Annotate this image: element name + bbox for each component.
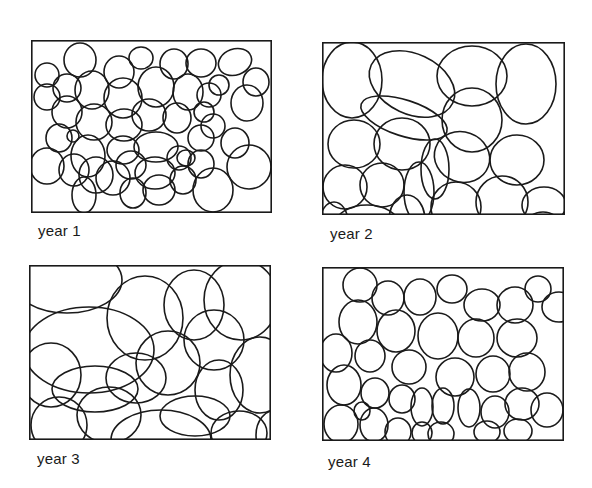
plant-clump-outline — [458, 389, 480, 427]
plant-clump-outline — [327, 365, 361, 405]
plant-clump-outline — [256, 410, 296, 460]
plant-clump-outline — [497, 319, 537, 357]
panel-label-year-1: year 1 — [38, 222, 81, 239]
plant-clump-outline — [227, 145, 271, 189]
panel-label-year-3: year 3 — [37, 450, 80, 467]
plant-clump-outline — [322, 42, 382, 118]
panel-year-4 — [322, 267, 564, 441]
plant-clump-outline — [136, 331, 200, 395]
plant-clump-outline — [328, 120, 380, 168]
plant-clump-outline — [437, 275, 467, 303]
plant-clumps — [30, 43, 271, 213]
plant-clump-outline — [12, 247, 122, 313]
plant-clump-outline — [116, 151, 146, 179]
plot-diagram-year-4 — [322, 267, 564, 441]
plant-clump-outline — [186, 49, 216, 77]
plant-clump-outline — [436, 358, 474, 396]
plant-clump-outline — [505, 388, 539, 420]
plant-clumps — [12, 247, 296, 470]
plant-clumps — [320, 38, 566, 256]
plant-clump-outline — [464, 289, 500, 321]
plant-clump-outline — [432, 388, 454, 424]
plant-clump-outline — [107, 276, 183, 360]
plant-clump-outline — [211, 411, 267, 455]
plot-diagram-year-2 — [322, 42, 565, 215]
plant-clump-outline — [490, 135, 544, 185]
panel-year-2 — [322, 42, 565, 215]
plant-clump-outline — [67, 130, 79, 142]
plant-clump-outline — [542, 292, 576, 322]
panel-label-year-4: year 4 — [328, 453, 371, 470]
plant-clump-outline — [360, 408, 388, 442]
plant-clump-outline — [120, 178, 146, 208]
plant-clump-outline — [129, 47, 153, 69]
plant-clump-outline — [476, 176, 528, 228]
plant-clump-outline — [476, 356, 510, 392]
plant-clump-outline — [193, 168, 233, 212]
plot-border — [32, 41, 271, 212]
plant-clump-outline — [404, 162, 434, 222]
plant-clump-outline — [458, 319, 494, 357]
plant-clump-outline — [389, 195, 425, 245]
plant-clump-outline — [355, 340, 385, 372]
plant-clumps — [320, 268, 576, 446]
plant-clump-outline — [231, 85, 263, 121]
plant-clump-outline — [392, 350, 426, 384]
plant-clump-outline — [497, 287, 533, 323]
plant-clump-outline — [160, 396, 230, 436]
plant-clump-outline — [320, 334, 352, 372]
plant-clump-outline — [404, 279, 436, 315]
plant-clump-outline — [442, 88, 502, 152]
plant-clump-outline — [64, 43, 96, 77]
plant-clump-outline — [431, 182, 481, 232]
plant-clump-outline — [427, 124, 497, 190]
plot-diagram-year-1 — [31, 40, 272, 213]
panel-year-1 — [31, 40, 272, 213]
plant-clump-outline — [177, 150, 195, 166]
plant-clump-outline — [324, 405, 358, 443]
plant-clump-outline — [411, 388, 433, 426]
plant-clump-outline — [385, 418, 411, 446]
panel-label-year-2: year 2 — [330, 225, 373, 242]
plant-clump-outline — [243, 68, 269, 96]
plant-clump-outline — [221, 128, 249, 158]
plant-clump-outline — [531, 393, 563, 427]
plot-diagram-year-3 — [29, 265, 271, 440]
panel-year-3 — [29, 265, 271, 440]
plant-clump-outline — [209, 75, 229, 95]
plant-clump-outline — [52, 96, 82, 128]
plant-clump-outline — [359, 38, 466, 130]
plant-clump-outline — [163, 103, 191, 133]
plant-clump-outline — [525, 276, 551, 302]
plant-clump-outline — [418, 313, 458, 359]
plant-clump-outline — [521, 212, 565, 256]
plant-clump-outline — [377, 310, 415, 352]
plant-clump-outline — [509, 353, 545, 391]
